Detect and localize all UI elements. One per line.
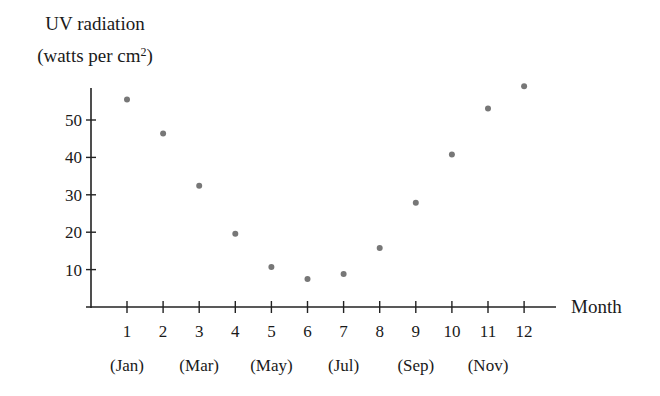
data-point: [413, 200, 419, 206]
x-tick-label: 4: [231, 322, 240, 341]
x-tick-label: 8: [375, 322, 384, 341]
data-point: [124, 96, 130, 102]
y-tick-label: 30: [65, 186, 82, 205]
data-point: [268, 264, 274, 270]
x-tick-label: 10: [443, 322, 460, 341]
x-tick-label: 3: [195, 322, 204, 341]
data-point: [160, 130, 166, 136]
y-tick-label: 50: [65, 111, 82, 130]
x-tick-label: 5: [267, 322, 276, 341]
data-point: [341, 271, 347, 277]
x-tick-label: 11: [480, 322, 496, 341]
month-label: (Jan): [110, 356, 144, 375]
x-tick-label: 9: [412, 322, 421, 341]
data-point: [305, 276, 311, 282]
scatter-plot: 1020304050123456789101112(Jan)(Mar)(May)…: [0, 0, 660, 396]
data-point: [449, 151, 455, 157]
y-tick-label: 20: [65, 223, 82, 242]
data-point: [485, 105, 491, 111]
x-tick-label: 12: [516, 322, 533, 341]
month-label: (Jul): [328, 356, 359, 375]
y-tick-label: 40: [65, 148, 82, 167]
data-point: [521, 83, 527, 89]
month-label: (May): [250, 356, 292, 375]
month-label: (Sep): [397, 356, 434, 375]
month-label: (Nov): [468, 356, 509, 375]
data-point: [196, 183, 202, 189]
data-point: [377, 245, 383, 251]
month-label: (Mar): [179, 356, 219, 375]
data-point: [232, 231, 238, 237]
x-axis-title: Month: [571, 296, 622, 317]
y-tick-label: 10: [65, 261, 82, 280]
x-tick-label: 1: [123, 322, 132, 341]
x-tick-label: 2: [159, 322, 168, 341]
x-tick-label: 6: [303, 322, 312, 341]
x-tick-label: 7: [339, 322, 348, 341]
